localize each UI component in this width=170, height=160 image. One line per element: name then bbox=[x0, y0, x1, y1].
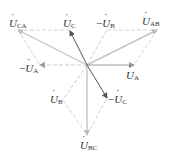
label-neg-u-b: −UB bbox=[96, 18, 115, 30]
dash-ub-ubc bbox=[63, 100, 87, 135]
dash-ubc-neg-uc bbox=[87, 98, 107, 135]
label-neg-u-a: −UA bbox=[19, 63, 38, 75]
line-voltage-phasors bbox=[18, 30, 157, 135]
label-u-ab: UAB bbox=[142, 16, 160, 28]
label-neg-u-c: −UC bbox=[108, 94, 127, 106]
neg-uc-phasor bbox=[87, 65, 107, 98]
label-u-c: UC bbox=[63, 18, 76, 30]
label-u-a: UA bbox=[126, 70, 139, 82]
uc-phasor bbox=[70, 31, 87, 65]
phasor-diagram: UCA UC −UB UAB −UA UA UB −UC UBC bbox=[0, 0, 170, 160]
label-u-bc: UBC bbox=[80, 140, 97, 152]
label-u-ca: UCA bbox=[9, 18, 27, 30]
ub-phasor bbox=[63, 65, 87, 100]
label-u-b: UB bbox=[50, 94, 63, 106]
